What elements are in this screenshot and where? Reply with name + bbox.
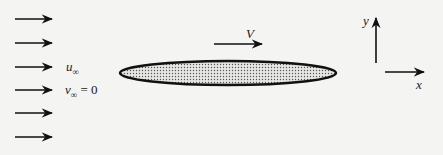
flow-diagram: u∞ v∞ = 0 V y x <box>0 0 443 155</box>
x-axis-label: x <box>416 78 422 91</box>
diagram-graphics <box>0 0 443 155</box>
v-infinity-label: v∞ = 0 <box>65 83 98 100</box>
y-axis-label: y <box>363 14 369 27</box>
u-infinity-label: u∞ <box>66 60 79 77</box>
freestream-arrows <box>15 19 52 137</box>
slender-body <box>120 61 336 85</box>
